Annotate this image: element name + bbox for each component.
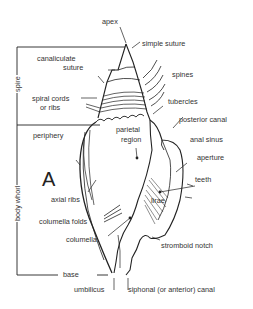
label-canaliculate-2: suture: [63, 64, 83, 72]
columella-dot: [129, 217, 132, 220]
label-columella-folds: columella folds: [39, 218, 87, 226]
bracket-label-spire: spire: [13, 75, 22, 93]
label-spiral-1: spiral cords: [32, 95, 69, 103]
label-stromboid-notch: stromboid notch: [161, 242, 213, 250]
label-columella: columella: [66, 236, 97, 244]
label-teeth: teeth: [195, 176, 211, 184]
label-tubercles: tubercles: [168, 98, 198, 106]
label-simple-suture: simple suture: [142, 40, 185, 48]
label-umbilicus: umbilicus: [74, 286, 104, 294]
label-apex: apex: [102, 18, 118, 26]
label-posterior-canal: posterior canal: [179, 116, 227, 124]
parietal-dot: [136, 157, 139, 160]
label-base: base: [63, 271, 79, 279]
label-lirae: lirae: [151, 197, 165, 205]
label-siphonal-canal: siphonal (or anterior) canal: [128, 286, 215, 294]
label-spiral-2: or ribs: [40, 104, 60, 112]
label-parietal-2: region: [121, 136, 141, 144]
label-canaliculate-1: canaliculate: [37, 55, 76, 63]
figure-letter: A: [42, 168, 55, 191]
label-axial-ribs: axial ribs: [51, 196, 80, 204]
label-parietal-1: parietal: [116, 126, 140, 134]
aperture-dot: [159, 191, 162, 194]
label-aperture: aperture: [197, 154, 224, 162]
shell-diagram: spire body whorl A apex simple suture ca…: [0, 0, 253, 309]
label-anal-sinus: anal sinus: [190, 136, 223, 144]
label-periphery: periphery: [33, 132, 63, 140]
label-spines: spines: [172, 71, 193, 79]
bracket-label-body-whorl: body whorl: [13, 185, 22, 222]
